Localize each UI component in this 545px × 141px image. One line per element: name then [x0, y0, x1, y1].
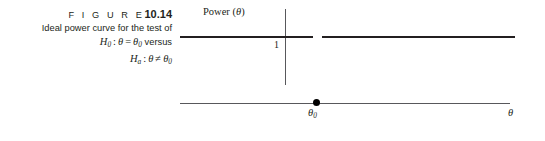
y-axis-label-text: Power (	[203, 6, 236, 17]
power-curve-segment-right	[322, 36, 515, 38]
x-axis-tick-theta-zero-subscript: 0	[313, 111, 317, 120]
x-axis-label: θ	[508, 107, 513, 118]
x-axis-line	[180, 103, 510, 104]
x-axis-tick-theta-zero: θ0	[308, 107, 317, 120]
power-curve-segment-left	[180, 36, 313, 38]
y-axis-label-close: )	[241, 6, 245, 17]
power-curve-plot: Power (θ) 1 θ0 θ	[0, 0, 545, 141]
y-axis-tick-one: 1	[274, 39, 279, 50]
y-axis-label: Power (θ)	[203, 6, 245, 17]
theta-zero-point-marker	[313, 99, 320, 106]
figure-panel: F I G U R E10.14 Ideal power curve for t…	[0, 0, 545, 141]
y-axis-line	[285, 9, 286, 85]
